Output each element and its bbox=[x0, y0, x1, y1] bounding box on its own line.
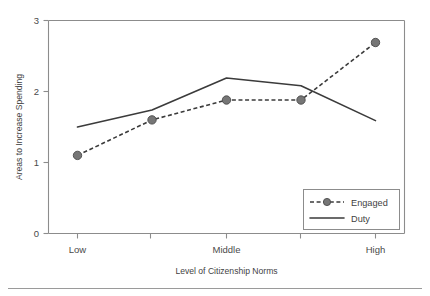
legend-marker-engaged bbox=[323, 198, 330, 205]
data-point bbox=[371, 38, 379, 46]
figure-container: 3 2 1 0 Areas to Increase Spending Low M… bbox=[0, 0, 430, 296]
legend-box bbox=[304, 190, 400, 230]
legend-label-engaged: Engaged bbox=[351, 198, 388, 208]
x-tick-label-high: High bbox=[366, 244, 386, 255]
data-point bbox=[297, 96, 305, 104]
series-engaged bbox=[73, 38, 379, 159]
data-point bbox=[148, 116, 156, 124]
y-axis-ticks: 3 2 1 0 bbox=[34, 15, 49, 239]
x-axis-title: Level of Citizenship Norms bbox=[175, 266, 277, 276]
legend-label-duty: Duty bbox=[351, 214, 370, 224]
y-tick-label-1: 1 bbox=[34, 157, 39, 168]
x-tick-label-low: Low bbox=[69, 244, 87, 255]
x-tick-label-middle: Middle bbox=[213, 244, 241, 255]
data-point bbox=[222, 96, 230, 104]
y-tick-label-2: 2 bbox=[34, 86, 39, 97]
x-axis-ticks bbox=[78, 234, 376, 239]
line-chart: 3 2 1 0 Areas to Increase Spending Low M… bbox=[0, 0, 430, 296]
y-axis-title: Areas to Increase Spending bbox=[14, 74, 24, 180]
data-series-layer bbox=[73, 38, 379, 159]
y-tick-label-3: 3 bbox=[34, 15, 39, 26]
y-tick-label-0: 0 bbox=[34, 228, 39, 239]
data-point bbox=[73, 151, 81, 159]
legend: Engaged Duty bbox=[304, 190, 400, 230]
